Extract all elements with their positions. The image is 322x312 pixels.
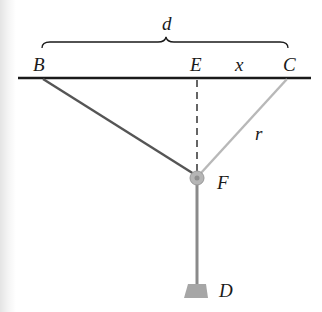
weight-D [184, 284, 208, 298]
label-B: B [33, 54, 45, 75]
rope-BF [43, 79, 194, 174]
label-d: d [162, 13, 172, 34]
label-x: x [234, 54, 244, 75]
label-r: r [255, 123, 263, 144]
label-D: D [218, 280, 233, 301]
pulley-diagram: d B E x C r F D [0, 0, 322, 312]
label-E: E [189, 54, 202, 75]
rope-CF [201, 79, 287, 173]
label-C: C [283, 54, 296, 75]
dimension-brace-d [42, 37, 288, 48]
label-F: F [216, 172, 229, 193]
pulley-hub-icon [195, 176, 200, 181]
